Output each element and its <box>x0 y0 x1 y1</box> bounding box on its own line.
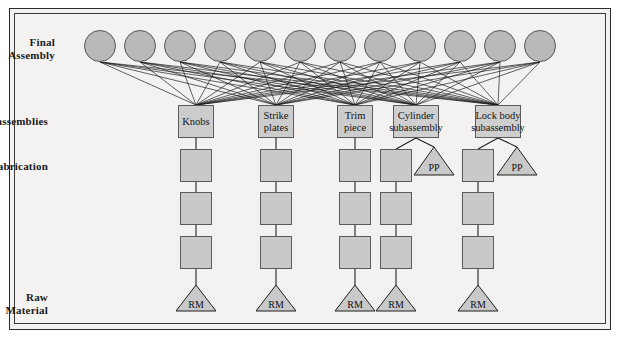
subassembly-cylinder-subassembly[interactable]: Cylinder subassembly <box>393 105 439 138</box>
final-assembly-node-9[interactable] <box>404 30 436 62</box>
raw-material-label-rm-trim-piece: RM <box>339 299 371 310</box>
fabrication-box-col-cylinder-2[interactable] <box>380 192 412 225</box>
final-assembly-node-8[interactable] <box>364 30 396 62</box>
fabrication-box-col-knobs-3[interactable] <box>180 236 212 269</box>
final-assembly-node-2[interactable] <box>124 30 156 62</box>
final-assembly-node-10[interactable] <box>444 30 476 62</box>
fabrication-box-col-trim-piece-1[interactable] <box>339 149 371 182</box>
final-assembly-node-6[interactable] <box>284 30 316 62</box>
final-assembly-node-3[interactable] <box>164 30 196 62</box>
row-label-subassemblies: Subassemblies <box>0 115 48 128</box>
row-label-final-assembly: Final Assembly <box>8 36 55 62</box>
fabrication-box-col-trim-piece-2[interactable] <box>339 192 371 225</box>
raw-material-label-rm-lock-body: RM <box>462 299 494 310</box>
subassembly-knobs[interactable]: Knobs <box>178 105 214 138</box>
purchased-part-label-pp-cylinder: PP <box>418 162 450 173</box>
final-assembly-node-1[interactable] <box>84 30 116 62</box>
final-assembly-node-4[interactable] <box>204 30 236 62</box>
final-assembly-node-7[interactable] <box>324 30 356 62</box>
final-assembly-node-12[interactable] <box>524 30 556 62</box>
final-assembly-node-5[interactable] <box>244 30 276 62</box>
subassembly-strike-plates[interactable]: Strike plates <box>258 105 294 138</box>
fabrication-box-col-strike-plates-2[interactable] <box>260 192 292 225</box>
fabrication-box-col-lock-body-3[interactable] <box>462 236 494 269</box>
fabrication-box-col-trim-piece-3[interactable] <box>339 236 371 269</box>
fabrication-box-col-knobs-2[interactable] <box>180 192 212 225</box>
raw-material-label-rm-knobs: RM <box>180 299 212 310</box>
fabrication-box-col-knobs-1[interactable] <box>180 149 212 182</box>
row-label-raw-material: Raw Material <box>0 291 48 317</box>
final-assembly-node-11[interactable] <box>484 30 516 62</box>
fabrication-box-col-cylinder-1[interactable] <box>380 149 412 182</box>
raw-material-label-rm-cylinder: RM <box>380 299 412 310</box>
fabrication-box-col-lock-body-1[interactable] <box>462 149 494 182</box>
fabrication-box-col-lock-body-2[interactable] <box>462 192 494 225</box>
assembly-to-subassembly-edges <box>100 62 540 105</box>
purchased-part-label-pp-lock-body: PP <box>501 162 533 173</box>
diagram-root: Final AssemblySubassembliesFabricationRa… <box>0 0 620 340</box>
raw-material-label-rm-strike-plates: RM <box>260 299 292 310</box>
subassembly-trim-piece[interactable]: Trim piece <box>337 105 373 138</box>
row-label-fabrication: Fabrication <box>0 160 48 173</box>
fabrication-box-col-strike-plates-3[interactable] <box>260 236 292 269</box>
subassembly-lock-body-subassembly[interactable]: Lock body subassembly <box>475 105 521 138</box>
fabrication-box-col-cylinder-3[interactable] <box>380 236 412 269</box>
fabrication-box-col-strike-plates-1[interactable] <box>260 149 292 182</box>
